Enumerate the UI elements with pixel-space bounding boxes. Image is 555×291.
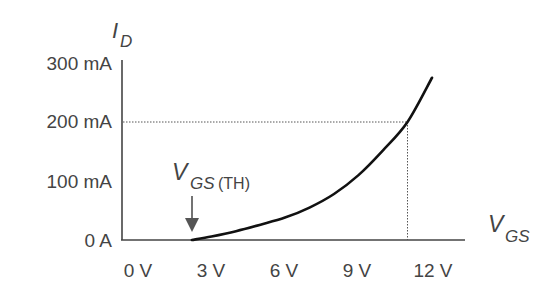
threshold-annotation: V GS (TH)	[172, 159, 250, 232]
y-tick-label: 300 mA	[47, 53, 113, 74]
y-tick-label: 100 mA	[47, 171, 113, 192]
x-label-sub: GS	[505, 227, 530, 246]
x-tick-label: 6 V	[270, 260, 299, 281]
transfer-curve	[192, 78, 432, 240]
x-label-main: V	[488, 211, 506, 237]
x-tick-label: 9 V	[343, 260, 372, 281]
y-tick-label: 200 mA	[47, 111, 113, 132]
x-tick-labels: 0 V 3 V 6 V 9 V 12 V	[124, 260, 453, 281]
x-axis-label: V GS	[488, 211, 530, 246]
x-tick-label: 0 V	[124, 260, 153, 281]
y-tick-labels: 0 A 100 mA 200 mA 300 mA	[47, 53, 113, 251]
vth-label-sub: GS	[190, 174, 215, 193]
vth-label-paren: (TH)	[218, 175, 250, 192]
y-tick-label: 0 A	[85, 230, 113, 251]
y-label-sub: D	[120, 32, 132, 51]
y-axis-label: I D	[112, 18, 132, 51]
arrow-head-icon	[185, 218, 199, 232]
y-label-main: I	[112, 18, 118, 43]
vth-label-main: V	[172, 159, 190, 185]
x-tick-label: 12 V	[413, 260, 452, 281]
x-tick-label: 3 V	[197, 260, 226, 281]
chart: 0 A 100 mA 200 mA 300 mA 0 V 3 V 6 V 9 V…	[0, 0, 555, 291]
